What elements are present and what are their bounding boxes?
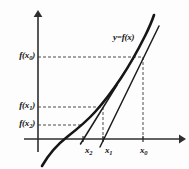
x-axis-label-x2: x2 <box>85 146 92 155</box>
y-axis-label-fx2: f(x2) <box>2 119 35 128</box>
y-label-fx2-sub: 2 <box>29 122 32 129</box>
x-label-x2-sub: 2 <box>89 149 92 156</box>
y-label-fx1-base: f(x <box>19 100 29 110</box>
x-axis-arrow-icon <box>179 135 186 144</box>
y-label-fx0-base: f(x <box>19 50 29 60</box>
function-curve-path <box>42 15 154 166</box>
tangent-line-at-x0 <box>100 26 159 147</box>
y-label-fx1-sub: 1 <box>29 104 32 111</box>
function-curve-group <box>42 15 154 166</box>
figure-canvas <box>0 0 189 169</box>
y-axis-label-fx0: f(x0) <box>2 51 35 60</box>
y-label-fx0-sub: 0 <box>29 54 32 61</box>
newton-method-figure: f(x0) f(x1) f(x2) x2 x1 x0 y=f(x) <box>0 0 189 169</box>
x-label-x1-sub: 1 <box>109 149 112 156</box>
y-label-fx1-close: ) <box>32 100 35 110</box>
y-axis-arrow-icon <box>34 10 43 17</box>
tangent-line-at-x1 <box>81 85 118 144</box>
y-label-fx2-base: f(x <box>19 118 29 128</box>
x-axis-label-x1: x1 <box>105 146 112 155</box>
curve-equation-label: y=f(x) <box>113 33 134 42</box>
axes-group <box>24 10 186 152</box>
tangent-lines-group <box>81 26 160 147</box>
y-label-fx0-close: ) <box>32 50 35 60</box>
y-label-fx2-close: ) <box>32 118 35 128</box>
x-label-x0-sub: 0 <box>144 149 147 156</box>
y-axis-label-fx1: f(x1) <box>2 101 35 110</box>
x-axis-label-x0: x0 <box>140 146 147 155</box>
